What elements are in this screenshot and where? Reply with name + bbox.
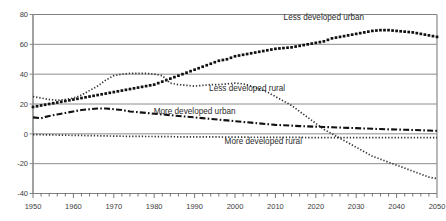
series-marker: [290, 46, 293, 49]
series-marker: [129, 88, 132, 91]
xtick-label: 2000: [227, 202, 244, 211]
series-marker: [48, 103, 51, 106]
series-marker: [323, 40, 326, 43]
series-marker: [76, 97, 79, 100]
series-marker: [84, 96, 87, 99]
ytick-label: 20: [20, 100, 28, 109]
series-marker: [44, 103, 47, 106]
series-marker: [411, 31, 414, 34]
series-marker: [116, 90, 119, 93]
series-marker: [282, 47, 285, 50]
series-marker: [339, 36, 342, 39]
series-marker: [149, 84, 152, 87]
ytick-label: 40: [20, 70, 28, 79]
series-marker: [193, 68, 196, 71]
series-marker: [153, 83, 156, 86]
series-marker: [145, 85, 148, 88]
ytick-label: 60: [20, 40, 28, 49]
series-marker: [125, 88, 128, 91]
series-marker: [189, 70, 192, 73]
series-marker: [40, 104, 43, 107]
ytick-label: -40: [17, 189, 28, 198]
series-marker: [80, 97, 83, 100]
series-marker: [343, 35, 346, 38]
series-marker: [92, 94, 95, 97]
series-marker: [347, 34, 350, 37]
series-marker: [428, 34, 431, 37]
series-marker: [314, 41, 317, 44]
series-marker: [161, 80, 164, 83]
series-marker: [121, 89, 124, 92]
series-marker: [363, 31, 366, 34]
ytick-label: 0: [24, 130, 28, 139]
series-marker: [258, 50, 261, 53]
series-marker: [298, 44, 301, 47]
population-change-line-chart: -40-200204060801950196019701980199020002…: [0, 0, 446, 221]
series-label-more-developed-urban: More developed urban: [154, 107, 236, 116]
series-marker: [424, 33, 427, 36]
ytick-label: 80: [20, 10, 28, 19]
series-marker: [262, 50, 265, 53]
series-marker: [226, 58, 229, 61]
xtick-label: 1990: [186, 202, 203, 211]
series-marker: [177, 74, 180, 77]
series-label-less-developed-urban: Less developed urban: [284, 13, 365, 22]
series-marker: [100, 93, 103, 96]
series-marker: [274, 47, 277, 50]
series-marker: [391, 29, 394, 32]
series-marker: [230, 56, 233, 59]
series-marker: [246, 53, 249, 56]
series-marker: [60, 100, 63, 103]
xtick-label: 2020: [307, 202, 324, 211]
series-marker: [217, 59, 220, 62]
series-marker: [104, 92, 107, 95]
xtick-label: 2040: [388, 202, 405, 211]
xtick-label: 2010: [267, 202, 284, 211]
series-marker: [318, 41, 321, 44]
xtick-label: 1970: [105, 202, 122, 211]
series-marker: [399, 30, 402, 33]
chart-container: -40-200204060801950196019701980199020002…: [0, 0, 446, 221]
series-marker: [331, 37, 334, 40]
series-marker: [270, 48, 273, 51]
series-marker: [306, 43, 309, 46]
series-marker: [403, 30, 406, 33]
series-marker: [359, 32, 362, 35]
series-label-more-developed-rural: More developed rural: [225, 137, 303, 146]
series-marker: [173, 76, 176, 79]
series-marker: [108, 91, 111, 94]
series-marker: [32, 106, 35, 109]
series-marker: [387, 29, 390, 32]
series-marker: [367, 30, 370, 33]
series-marker: [185, 71, 188, 74]
series-marker: [133, 87, 136, 90]
series-marker: [415, 32, 418, 35]
series-marker: [351, 33, 354, 36]
series-marker: [52, 102, 55, 105]
series-marker: [436, 36, 439, 39]
series-marker: [419, 33, 422, 36]
series-marker: [395, 30, 398, 33]
series-marker: [242, 53, 245, 56]
series-marker: [238, 54, 241, 57]
series-marker: [302, 44, 305, 47]
series-marker: [181, 73, 184, 76]
series-marker: [112, 91, 115, 94]
xtick-label: 1950: [25, 202, 42, 211]
series-marker: [209, 62, 212, 65]
series-marker: [137, 86, 140, 89]
series-marker: [205, 64, 208, 67]
series-marker: [355, 33, 358, 36]
series-marker: [383, 29, 386, 32]
series-marker: [72, 98, 75, 101]
series-marker: [56, 101, 59, 104]
series-marker: [88, 95, 91, 98]
series-marker: [375, 29, 378, 32]
ytick-label: -20: [17, 159, 28, 168]
series-marker: [379, 29, 382, 32]
series-marker: [141, 86, 144, 89]
series-marker: [371, 30, 374, 33]
xtick-label: 1960: [65, 202, 82, 211]
series-marker: [157, 82, 160, 85]
series-marker: [222, 59, 225, 62]
